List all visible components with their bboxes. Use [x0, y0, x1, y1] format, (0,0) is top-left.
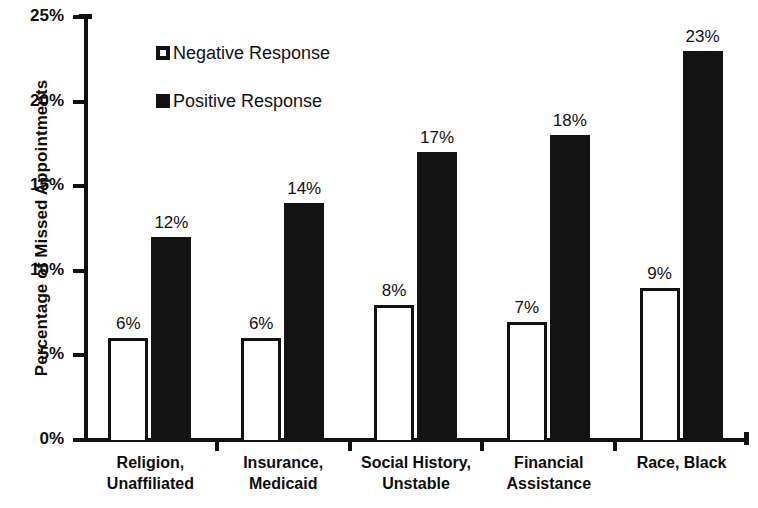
category-label-line2: Assistance [482, 473, 615, 494]
y-axis-tick [73, 15, 84, 19]
category-label-line2: Medicaid [217, 473, 350, 494]
bar-positive-response [683, 51, 723, 440]
x-axis-tick [480, 441, 484, 451]
chart-legend: Negative Response Positive Response [156, 40, 330, 136]
x-axis-tick [348, 441, 352, 451]
bar-negative-response [108, 338, 148, 440]
category-label-line1: Religion, [84, 452, 217, 473]
category-label-line1: Financial [482, 452, 615, 473]
bar-value-label: 7% [499, 298, 555, 318]
x-axis-tick [613, 441, 617, 451]
category-label-line2: Unstable [350, 473, 483, 494]
y-axis-tick-label: 15% [0, 175, 64, 195]
legend-swatch-positive-icon [156, 94, 170, 108]
legend-swatch-negative-icon [156, 46, 170, 60]
bar-value-label: 14% [276, 179, 332, 199]
bar-value-label: 17% [409, 128, 465, 148]
legend-item-positive-response: Positive Response [156, 88, 330, 114]
bar-negative-response [241, 338, 281, 440]
x-axis-category-label: Religion,Unaffiliated [84, 452, 217, 495]
bar-negative-response [507, 322, 547, 440]
category-label-line2: Unaffiliated [84, 473, 217, 494]
y-axis-tick-label: 0% [0, 429, 64, 449]
bar-value-label: 6% [233, 314, 289, 334]
x-axis-tick [215, 441, 219, 451]
bar-value-label: 8% [366, 281, 422, 301]
y-axis-tick-label: 10% [0, 260, 64, 280]
x-axis-category-label: Insurance,Medicaid [217, 452, 350, 495]
bar-positive-response [284, 203, 324, 440]
y-axis-tick [73, 353, 84, 357]
bar-positive-response [417, 152, 457, 440]
category-label-line1: Insurance, [217, 452, 350, 473]
y-axis-tick [73, 438, 84, 442]
bar-value-label: 9% [632, 264, 688, 284]
x-axis-category-label: Race, Black [615, 452, 748, 473]
bar-positive-response [550, 135, 590, 440]
legend-label-negative: Negative Response [173, 43, 330, 64]
y-axis-tick [73, 269, 84, 273]
y-axis-tick [73, 184, 84, 188]
bar-value-label: 6% [100, 314, 156, 334]
x-axis-category-label: Social History,Unstable [350, 452, 483, 495]
y-axis-tick [73, 100, 84, 104]
x-axis-category-label: FinancialAssistance [482, 452, 615, 495]
category-label-line1: Social History, [350, 452, 483, 473]
y-axis-title: Percentage of Missed Appointments [32, 18, 52, 438]
bar-value-label: 12% [143, 213, 199, 233]
legend-label-positive: Positive Response [173, 91, 322, 112]
legend-item-negative-response: Negative Response [156, 40, 330, 66]
bar-negative-response [640, 288, 680, 440]
category-label-line1: Race, Black [615, 452, 748, 473]
bar-chart: Percentage of Missed Appointments 0%5%10… [0, 0, 758, 508]
y-axis-tick-label: 20% [0, 91, 64, 111]
y-axis-tick-label: 5% [0, 344, 64, 364]
bar-negative-response [374, 305, 414, 440]
bar-positive-response [151, 237, 191, 440]
y-axis-tick-label: 25% [0, 6, 64, 26]
bar-value-label: 23% [675, 27, 731, 47]
bar-value-label: 18% [542, 111, 598, 131]
